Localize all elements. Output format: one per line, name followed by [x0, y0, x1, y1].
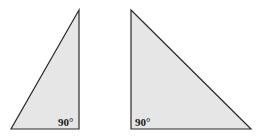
diagram-canvas: 90° 90°: [0, 0, 264, 137]
right-triangle: [131, 10, 251, 129]
triangles-figure: 90° 90°: [0, 0, 264, 137]
right-triangle-angle-label: 90°: [135, 116, 150, 128]
left-triangle: [11, 10, 79, 129]
left-triangle-angle-label: 90°: [58, 116, 73, 128]
